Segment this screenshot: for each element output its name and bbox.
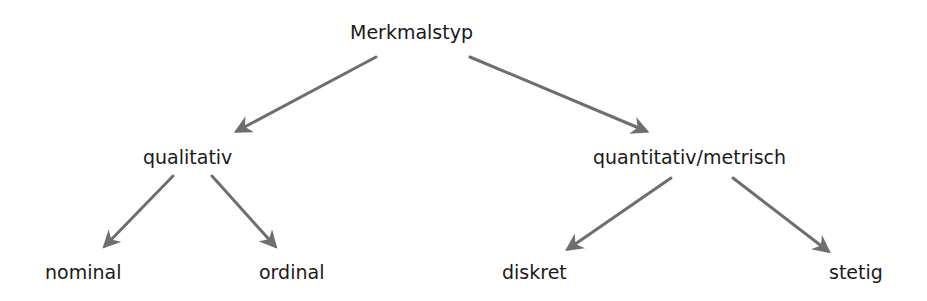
node-diskret: diskret [502, 263, 567, 282]
node-qualitativ: qualitativ [143, 148, 232, 167]
edge-layer [0, 0, 927, 301]
node-root-merkmalstyp: Merkmalstyp [350, 23, 473, 42]
edge-qualitativ-ordinal [212, 176, 275, 246]
node-stetig: stetig [829, 263, 883, 282]
edge-qualitativ-nominal [105, 176, 173, 246]
edge-merkmalstyp-qualitativ [237, 57, 376, 131]
node-quantitativ-metrisch: quantitativ/metrisch [593, 148, 786, 167]
node-ordinal: ordinal [259, 263, 324, 282]
edge-merkmalstyp-quantitativ [470, 57, 646, 131]
edge-quantitativ-stetig [733, 178, 828, 251]
edge-quantitativ-diskret [568, 178, 671, 249]
node-nominal: nominal [45, 263, 121, 282]
